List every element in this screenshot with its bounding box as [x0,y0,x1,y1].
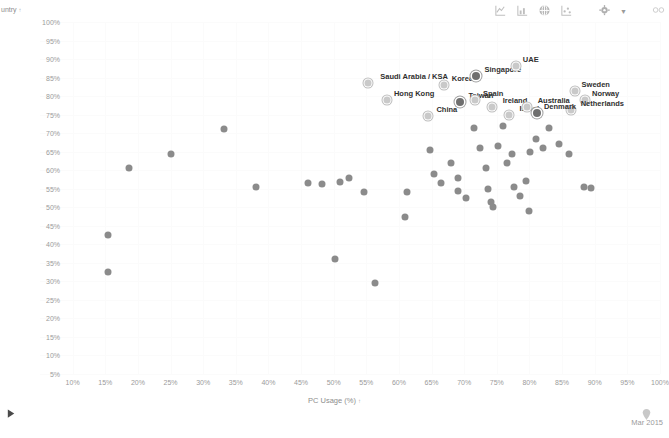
data-point-label: Denmark [544,101,576,110]
data-point[interactable] [463,195,470,202]
data-point[interactable] [499,122,506,129]
scatter-chart-icon[interactable] [560,4,573,17]
data-point[interactable] [430,170,437,177]
data-point-label: Norway [592,88,619,97]
data-point[interactable] [484,185,491,192]
data-point-china[interactable] [425,113,432,120]
data-point[interactable] [221,126,228,133]
x-axis-tick-label: 85% [555,379,569,386]
data-point[interactable] [476,144,483,151]
x-axis-tick-label: 100% [651,379,669,386]
data-point[interactable] [337,179,344,186]
data-point-uae[interactable] [513,63,520,70]
x-axis-tick-label: 40% [261,379,275,386]
data-point[interactable] [546,124,553,131]
gridline-horizontal [40,170,660,171]
gridline-vertical [562,22,563,374]
data-point[interactable] [346,175,353,182]
data-point-hong-kong[interactable] [384,96,391,103]
data-point-denmark[interactable] [533,109,541,117]
data-point[interactable] [587,184,594,191]
data-point-ireland[interactable] [489,104,496,111]
data-point[interactable] [540,144,547,151]
play-button[interactable] [6,408,17,419]
data-point[interactable] [510,183,517,190]
data-point[interactable] [402,213,409,220]
data-point[interactable] [516,193,523,200]
data-point-spain[interactable] [471,96,478,103]
link-infinity-icon[interactable] [652,4,665,17]
globe-icon[interactable] [538,4,551,17]
data-point[interactable] [482,165,489,172]
data-point-label: Saudi Arabia / KSA [380,72,448,81]
gridline-vertical [268,22,269,374]
data-point-korea[interactable] [440,81,447,88]
date-stamp: Mar 2015 [631,418,663,427]
data-point[interactable] [331,256,338,263]
line-chart-icon[interactable] [494,4,507,17]
bar-chart-icon[interactable] [516,4,529,17]
data-point[interactable] [525,207,532,214]
y-axis-tick-label: 5% [20,371,60,378]
data-point[interactable] [360,189,367,196]
data-point-label: Netherlands [581,99,624,108]
data-point-singapore[interactable] [472,72,480,80]
data-point[interactable] [126,165,133,172]
data-point-australia[interactable] [523,104,530,111]
data-point[interactable] [253,183,260,190]
y-axis-tick-label: 95% [20,37,60,44]
data-point[interactable] [495,143,502,150]
gridline-vertical [497,22,498,374]
gridline-vertical [138,22,139,374]
data-point-sweden[interactable] [572,87,579,94]
data-point[interactable] [489,204,496,211]
data-point[interactable] [565,150,572,157]
data-point[interactable] [427,146,434,153]
data-point[interactable] [508,150,515,157]
data-point[interactable] [454,187,461,194]
y-axis-tick-label: 100% [20,19,60,26]
date-marker-icon [642,406,651,417]
data-point[interactable] [104,269,111,276]
data-point[interactable] [455,174,462,181]
gridline-horizontal [40,189,660,190]
dropdown-caret-icon[interactable]: ▼ [620,8,627,15]
gridline-horizontal [40,78,660,79]
gridline-vertical [301,22,302,374]
data-point[interactable] [522,178,529,185]
data-point[interactable] [403,189,410,196]
gridline-horizontal [40,115,660,116]
data-point[interactable] [448,159,455,166]
x-axis-title[interactable]: PC Usage (%) ↑ [0,396,669,405]
x-axis-title-text: PC Usage (%) [308,396,356,405]
x-axis-tick-label: 70% [457,379,471,386]
settings-gear-icon[interactable] [598,4,611,17]
x-axis-tick-label: 65% [425,379,439,386]
data-point[interactable] [438,180,445,187]
gridline-horizontal [40,41,660,42]
data-point[interactable] [533,135,540,142]
gridline-horizontal [40,226,660,227]
data-point-israel[interactable] [505,111,512,118]
data-point-taiwan[interactable] [456,98,464,106]
scatter-plot-area[interactable]: Hong KongSaudi Arabia / KSAChinaKoreaTai… [40,22,660,374]
data-point[interactable] [104,232,111,239]
data-point-saudi-arabia-ksa[interactable] [365,80,372,87]
chart-toolbar: ▼ [494,0,665,20]
y-axis-tick-label: 40% [20,241,60,248]
data-point[interactable] [168,150,175,157]
y-axis-title[interactable]: untry ↑ [1,6,22,13]
gridline-horizontal [40,337,660,338]
y-axis-tick-label: 90% [20,56,60,63]
data-point[interactable] [304,180,311,187]
x-axis-tick-label: 75% [490,379,504,386]
x-axis-tick-label: 15% [98,379,112,386]
data-point[interactable] [372,280,379,287]
data-point[interactable] [318,180,325,187]
data-point[interactable] [471,124,478,131]
data-point[interactable] [527,148,534,155]
data-point[interactable] [555,141,562,148]
x-axis-sort-icon[interactable]: ↑ [358,398,361,404]
data-point[interactable] [503,159,510,166]
y-axis-sort-icon[interactable]: ↑ [19,7,22,13]
